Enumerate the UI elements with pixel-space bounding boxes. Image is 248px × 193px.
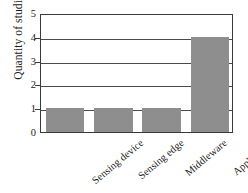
y-tick-label: 2 <box>22 79 36 90</box>
y-tick-label: 1 <box>22 103 36 114</box>
bar <box>191 37 230 132</box>
y-axis-tick-labels: 012345 <box>22 8 36 139</box>
x-tick-label: Sensing device <box>90 137 146 186</box>
y-tick-label: 5 <box>22 8 36 19</box>
plot-area <box>40 14 233 133</box>
bar <box>94 108 133 132</box>
y-tick-label: 0 <box>22 127 36 138</box>
bar-chart: Quantity of studies 012345 Sensing devic… <box>0 0 248 193</box>
x-tick-label: Middleware <box>183 137 229 178</box>
bar <box>46 108 85 132</box>
y-tick-label: 4 <box>22 32 36 43</box>
bar <box>142 108 181 132</box>
y-tick-label: 3 <box>22 56 36 67</box>
x-tick-label: Application <box>231 137 248 177</box>
x-axis-tick-labels: Sensing deviceSensing edgeMiddlewareAppl… <box>40 133 233 193</box>
bars-group <box>41 15 232 132</box>
